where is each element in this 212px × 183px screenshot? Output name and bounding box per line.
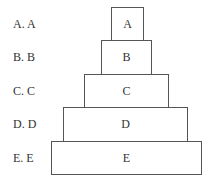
pyramid-box-d: D <box>63 107 188 142</box>
box-d-text: D <box>121 117 130 132</box>
pyramid-box-c: C <box>84 74 169 108</box>
box-c-text: C <box>122 84 130 99</box>
box-a-text: A <box>123 17 132 32</box>
pyramid-box-a: A <box>111 7 144 41</box>
box-e-text: E <box>123 151 130 166</box>
option-label-d: D. D <box>13 117 36 131</box>
pyramid-box-b: B <box>101 40 152 75</box>
pyramid-box-e: E <box>51 141 202 175</box>
box-b-text: B <box>122 50 130 65</box>
option-label-a: A. A <box>13 17 36 31</box>
option-label-b: B. B <box>13 50 35 64</box>
option-label-e: E. E <box>13 151 34 165</box>
option-label-c: C. C <box>13 84 35 98</box>
